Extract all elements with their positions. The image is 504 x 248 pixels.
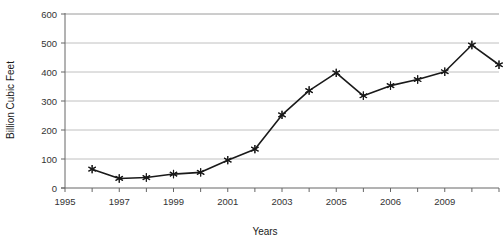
y-axis-tick-label: 200 (41, 125, 57, 136)
x-axis-tick-label: 2006 (380, 196, 401, 207)
x-axis-tick-label: 1999 (163, 196, 184, 207)
x-axis-tick-label: 1997 (109, 196, 130, 207)
x-axis-tick-label: 2009 (434, 196, 455, 207)
line-chart: 0100200300400500600 19951997199920012003… (0, 0, 504, 248)
x-axis-tick-label: 2003 (271, 196, 292, 207)
x-axis-tick-label: 1995 (54, 196, 75, 207)
y-axis-tick-label: 500 (41, 38, 57, 49)
y-axis-tick-label: 400 (41, 67, 57, 78)
chart-canvas: 0100200300400500600 19951997199920012003… (0, 0, 504, 248)
y-axis-tick-label: 600 (41, 9, 57, 20)
y-axis-tick-label: 0 (52, 183, 57, 194)
y-axis-tick-label: 300 (41, 96, 57, 107)
chart-background (0, 0, 504, 248)
x-axis-tick-label: 2001 (217, 196, 238, 207)
y-axis-tick-label: 100 (41, 154, 57, 165)
x-axis-title: Years (252, 226, 277, 237)
y-axis-title: Billion Cubic Feet (5, 61, 16, 139)
x-axis-tick-label: 2005 (326, 196, 347, 207)
